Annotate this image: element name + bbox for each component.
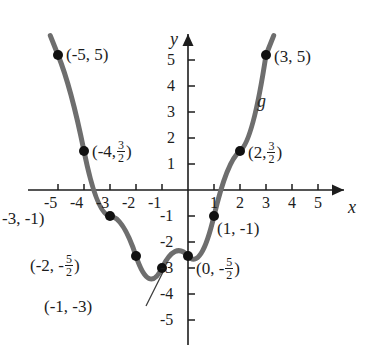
point-label-2-prefix: (2,: [248, 144, 266, 161]
point-label-0-suffix: ): [234, 260, 240, 277]
point-label-0-prefix: (0, -: [196, 260, 224, 277]
y-tick-3: 3: [167, 104, 175, 120]
point-label-m4-prefix: (-4,: [92, 143, 116, 160]
x-tick-m1: -1: [148, 195, 161, 211]
point-label-m2-prefix: (-2, -: [30, 257, 64, 274]
point-label-2-suffix: ): [276, 144, 282, 161]
y-tick-m1: -1: [160, 208, 173, 224]
x-tick-1: 1: [210, 195, 218, 211]
fraction-numerator: 3: [267, 140, 275, 152]
y-tick-4: 4: [167, 78, 175, 94]
point-label-m1: (-1, -3): [44, 298, 92, 315]
x-tick-3: 3: [262, 195, 270, 211]
y-tick-1: 1: [167, 156, 175, 172]
fraction-denominator: 2: [65, 265, 73, 278]
x-tick-2: 2: [236, 195, 244, 211]
point-m5: [53, 50, 63, 60]
point-m4: [79, 146, 89, 156]
y-tick-m2: -2: [160, 234, 173, 250]
point-label-m4: (-4, 3 2 ): [92, 139, 132, 164]
y-tick-m5: -5: [160, 312, 173, 328]
fraction-three-halves: 3 2: [117, 139, 125, 164]
fraction-denominator: 2: [267, 152, 275, 165]
point-label-m5: (-5, 5): [66, 46, 108, 63]
x-tick-4: 4: [288, 195, 296, 211]
x-tick-m2: -2: [122, 195, 135, 211]
function-name-label: g: [257, 92, 266, 110]
y-axis-label: y: [170, 30, 178, 48]
point-0: [183, 251, 193, 261]
fraction-denominator: 2: [117, 151, 125, 164]
point-label-m3: -3, -1): [2, 210, 44, 227]
fraction-five-halves: 5 2: [65, 253, 73, 278]
point-label-m4-suffix: ): [126, 143, 132, 160]
point-label-m2-suffix: ): [74, 257, 80, 274]
fraction-numerator: 5: [65, 253, 73, 265]
point-label-0: (0, - 5 2 ): [196, 256, 240, 281]
x-tick-m4: -4: [70, 195, 83, 211]
point-label-1: (1, -1): [217, 220, 259, 237]
y-tick-m4: -4: [160, 286, 173, 302]
x-tick-m5: -5: [44, 195, 57, 211]
y-tick-2: 2: [167, 130, 175, 146]
point-label-m2: (-2, - 5 2 ): [30, 253, 80, 278]
graph-figure: y x g 5 4 3 2 1 -1 -2 -3 -4 -5 -5 -4 -3 …: [0, 0, 368, 359]
fraction-five-halves: 5 2: [225, 256, 233, 281]
x-tick-m3: -3: [96, 195, 109, 211]
point-m2: [131, 251, 141, 261]
point-3: [261, 50, 271, 60]
point-m3: [105, 211, 115, 221]
y-tick-m3: -3: [160, 260, 173, 276]
x-tick-5: 5: [314, 195, 322, 211]
point-2: [235, 146, 245, 156]
fraction-denominator: 2: [225, 268, 233, 281]
fraction-numerator: 3: [117, 139, 125, 151]
fraction-three-halves: 3 2: [267, 140, 275, 165]
fraction-numerator: 5: [225, 256, 233, 268]
point-label-3: (3, 5): [274, 48, 311, 65]
point-label-2: (2, 3 2 ): [248, 140, 282, 165]
y-tick-5: 5: [167, 52, 175, 68]
x-axis-label: x: [348, 198, 356, 216]
